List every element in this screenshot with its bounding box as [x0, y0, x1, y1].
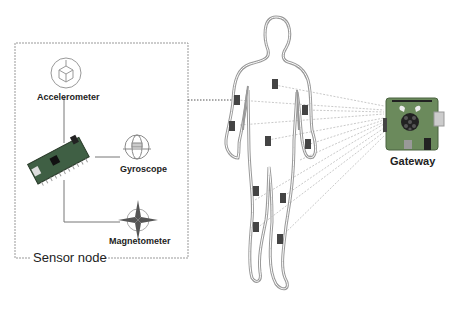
- sensor-node-box: [15, 43, 188, 258]
- sensor-left-shin: [253, 222, 259, 232]
- accelerometer-label: Accelerometer: [37, 92, 100, 102]
- sensor-waist: [265, 136, 271, 146]
- raspberry-pi-board-icon: [383, 98, 444, 150]
- gateway-label: Gateway: [390, 155, 435, 167]
- gyroscope-label: Gyroscope: [120, 164, 167, 174]
- accelerometer-icon: [51, 58, 81, 88]
- sensor-left-forearm: [229, 121, 235, 131]
- sensor-left-upper-arm: [234, 95, 240, 105]
- diagram-canvas: [0, 0, 454, 313]
- sensor-right-forearm: [305, 139, 311, 149]
- magnetometer-label: Magnetometer: [109, 236, 171, 246]
- human-body-outline: [226, 17, 316, 289]
- sensor-chest: [272, 79, 278, 89]
- sensor-right-thigh: [280, 193, 286, 203]
- sensor-right-upper-arm: [302, 105, 308, 115]
- sensor-node-title: Sensor node: [33, 250, 107, 265]
- gyroscope-icon: [123, 135, 151, 159]
- sensor-left-thigh: [253, 186, 259, 196]
- sensor-right-shin: [277, 234, 283, 244]
- microcontroller-board-icon: [26, 134, 91, 188]
- magnetometer-icon: [118, 200, 158, 240]
